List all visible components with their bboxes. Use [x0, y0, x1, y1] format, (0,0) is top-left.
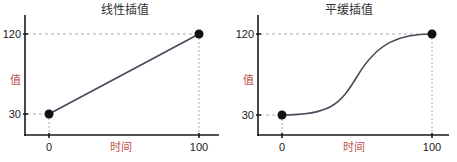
x-tick-label: 0: [279, 141, 285, 153]
smooth-curve: [282, 34, 432, 115]
y-tick-label: 120: [3, 28, 21, 40]
x-tick-label: 100: [190, 141, 208, 153]
x-tick-label: 100: [423, 141, 441, 153]
y-axis-label: 值: [10, 74, 21, 87]
chart-title: 线性插值: [101, 2, 149, 17]
chart-linear: 线性插值 120 30 0 100 值 时间: [3, 2, 219, 154]
y-axis-label: 值: [243, 74, 254, 87]
y-tick-label: 30: [9, 108, 21, 120]
keyframe-point: [428, 30, 437, 39]
chart-smooth: 平缓插值 120 30 0 100 值 时间: [236, 2, 449, 154]
keyframe-point: [278, 111, 287, 120]
figure: 线性插值 120 30 0 100 值 时间 平缓插值: [0, 0, 457, 162]
y-tick-label: 30: [242, 109, 254, 121]
x-axis-label: 时间: [110, 141, 132, 154]
keyframe-point: [195, 30, 204, 39]
x-tick-label: 0: [46, 141, 52, 153]
y-tick-label: 120: [236, 28, 254, 40]
keyframe-point: [45, 110, 54, 119]
x-axis-label: 时间: [343, 141, 365, 154]
chart-title: 平缓插值: [325, 2, 373, 17]
linear-curve: [49, 34, 199, 114]
